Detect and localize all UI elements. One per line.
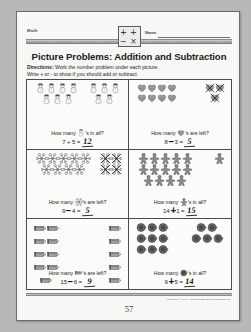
gingerbread-icon (182, 153, 193, 164)
picture-area (27, 82, 128, 125)
object-row (134, 83, 180, 93)
snowman-icon (68, 83, 79, 94)
object-group (203, 83, 226, 103)
mitten-icon-crossed-out (210, 93, 220, 103)
problem-equation: 7+5=12 (27, 138, 128, 147)
copyright-notice: Copyright © 1991 American Education Publ… (167, 298, 231, 301)
answer-blank[interactable]: 15 (186, 207, 197, 216)
snowflake-icon (69, 153, 80, 164)
operator-symbol[interactable]: + (170, 205, 175, 216)
question-text-after: 's are left? (83, 269, 107, 275)
snowflake-icon (52, 164, 63, 175)
worksheet-header: Math + + − × Name (26, 26, 232, 48)
problem-equation: 15−6=9 (27, 277, 128, 287)
object-group (214, 153, 227, 164)
snowman-icon (93, 94, 104, 105)
problem-grid: How many 's in all?7+5=12 (26, 79, 232, 290)
object-row (32, 235, 61, 248)
snowflake-icon (58, 153, 69, 164)
problem-question: How many 's in all? (27, 129, 128, 138)
pencil-icon (109, 222, 122, 235)
operand-left: 15 (60, 279, 67, 285)
snowflake-icon (41, 164, 52, 175)
snowflake-icon (47, 153, 58, 164)
mug-icon (136, 233, 147, 244)
pencil-icon (109, 235, 122, 248)
snowflake-icon (36, 153, 47, 164)
operand-right: 4 (72, 208, 75, 214)
object-row (134, 93, 180, 103)
mitten-icon (137, 83, 147, 93)
gingerbread-icon (165, 175, 176, 186)
page-number: 57 (17, 304, 241, 314)
object-group (134, 83, 180, 103)
operand-left: 7 (62, 139, 65, 145)
problem-cell: How many 's are left?15−6=9 (27, 219, 129, 289)
object-group (32, 83, 82, 105)
snowman-icon (99, 83, 110, 94)
object-row (189, 233, 227, 244)
pencil-icon (47, 248, 60, 261)
mug-icon (158, 222, 169, 233)
equals-sign: = (79, 279, 83, 285)
operator-symbol[interactable]: − (66, 205, 71, 216)
object-row (98, 164, 123, 175)
mitten-icon (167, 83, 177, 93)
mitten-icon (147, 93, 157, 103)
answer-blank[interactable]: 12 (82, 138, 93, 147)
snowman-icon (57, 83, 68, 94)
answer-blank[interactable]: 5 (184, 138, 195, 147)
picture-area (27, 152, 128, 195)
object-row (134, 233, 172, 244)
gingerbread-icon (154, 175, 165, 186)
mitten-icon (157, 93, 167, 103)
pencil-icon (109, 248, 122, 261)
pencil-icon (47, 222, 60, 235)
problem-equation: 9+5=14 (129, 277, 231, 287)
gingerbread-icon (214, 153, 225, 164)
svg-text:−: − (121, 36, 127, 46)
answer-blank[interactable]: 9 (83, 278, 94, 287)
question-text-before: How many (51, 129, 77, 135)
answer-blank[interactable]: 14 (184, 278, 195, 287)
object-row (109, 287, 124, 289)
object-row (203, 93, 226, 103)
object-group (189, 222, 227, 244)
object-row (109, 235, 124, 248)
snowman-icon (46, 83, 57, 94)
pencil-icon (34, 222, 47, 235)
picture-area (27, 221, 128, 264)
gingerbread-icon (143, 175, 154, 186)
answer-blank[interactable]: 5 (82, 207, 93, 216)
snowman-icon (35, 83, 46, 94)
object-row (32, 83, 82, 94)
equals-sign: = (179, 279, 183, 285)
object-group (86, 83, 124, 105)
object-group (134, 153, 197, 186)
pencil-icon (109, 287, 122, 289)
operator-symbol[interactable]: − (169, 136, 174, 147)
problem-cell: How many 's in all?9+5=14 (129, 219, 231, 289)
snowman-icon (88, 83, 99, 94)
gingerbread-icon (138, 153, 149, 164)
snowflake-icon (80, 153, 91, 164)
question-text-after: 's in all? (188, 269, 207, 275)
object-row (86, 83, 124, 94)
object-row (109, 248, 124, 261)
operator-symbol[interactable]: − (68, 276, 73, 287)
snowman-icon (104, 94, 115, 105)
equals-sign: = (179, 139, 183, 145)
operand-left: 14 (163, 208, 170, 214)
snowflake-icon-crossed-out (111, 153, 122, 164)
pencil-icon (34, 235, 47, 248)
mug-icon (158, 233, 169, 244)
math-symbols-icon: + + − × (118, 26, 141, 47)
name-write-line[interactable] (158, 37, 230, 38)
object-row (98, 153, 123, 164)
directions: Directions: Work the number problem unde… (27, 64, 233, 77)
operator-symbol[interactable]: + (169, 276, 174, 287)
snowflake-icon-crossed-out (100, 164, 111, 175)
picture-area (129, 221, 231, 264)
mug-icon (191, 233, 202, 244)
operator-symbol[interactable]: + (67, 139, 71, 145)
